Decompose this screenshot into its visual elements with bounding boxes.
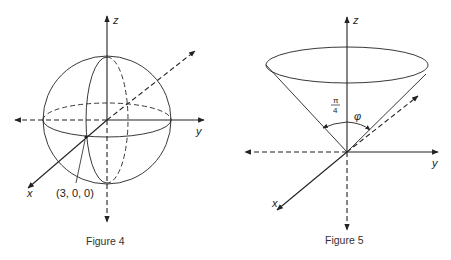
angle-arc-pi-over-4 [323,122,347,128]
figure-4-caption: Figure 4 [86,235,125,247]
z-axis-label: z [112,14,119,26]
angle-arc-phi [347,122,370,130]
y-axis-label: y [431,157,439,169]
x-axis-negative [107,51,195,120]
figure-4: z y x (3, 0, 0) Figure 4 [15,14,204,247]
angle-label-denominator: 4 [333,106,338,115]
figure-5-caption: Figure 5 [325,234,364,246]
point-3-0-0-marker [84,135,87,138]
angle-label-numerator: π [333,96,339,105]
z-axis-label: z [352,14,359,26]
x-axis-positive [28,120,107,188]
point-leader-line [76,140,85,183]
x-axis-positive [277,152,347,210]
x-axis-label: x [271,197,278,209]
y-axis-label: y [195,125,203,137]
diagram-canvas: z y x (3, 0, 0) Figure 4 z y x π 4 φ Fig… [0,0,451,260]
point-label: (3, 0, 0) [56,187,94,199]
figure-5: z y x π 4 φ Figure 5 [245,14,439,246]
phi-label: φ [354,110,361,122]
x-axis-label: x [26,187,33,199]
